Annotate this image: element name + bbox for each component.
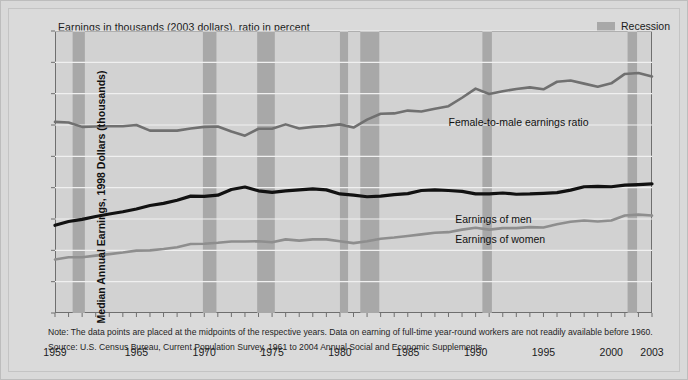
chart-page: Earnings in thousands (2003 dollars), ra…	[0, 0, 688, 380]
series-label-women: Earnings of women	[455, 233, 545, 245]
recession-swatch-icon	[597, 22, 615, 31]
series-label-ratio: Female-to-male earnings ratio	[448, 116, 588, 128]
series-label-men: Earnings of men	[455, 213, 531, 225]
plot-area: Median Annual Earnings, 1998 Dollars (th…	[55, 31, 652, 313]
y-axis-title: Median Annual Earnings, 1998 Dollars (th…	[95, 57, 107, 337]
source-text: Source: U.S. Census Bureau, Current Popu…	[48, 341, 665, 353]
note-text: Note: The data points are placed at the …	[48, 326, 665, 338]
axis-ticks-layer	[55, 31, 652, 313]
footnotes: Note: The data points are placed at the …	[48, 326, 665, 356]
